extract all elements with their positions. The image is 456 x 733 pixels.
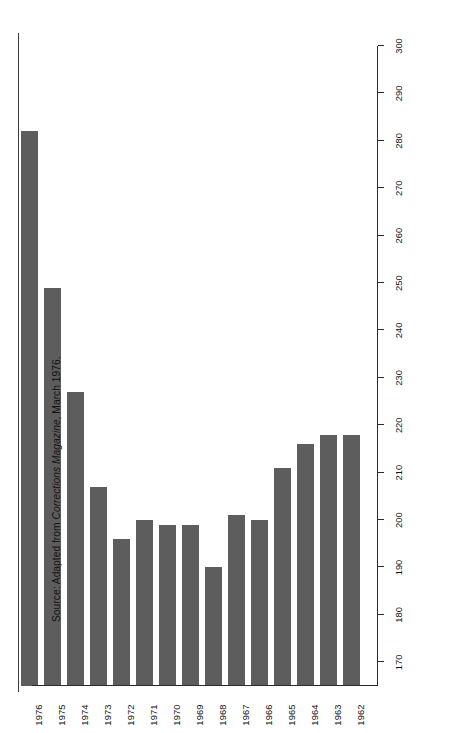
value-axis-label: 210 — [393, 453, 404, 493]
category-label: 1975 — [56, 692, 67, 733]
bar — [21, 131, 38, 686]
category-label: 1962 — [355, 692, 366, 733]
bar — [228, 515, 245, 686]
category-label: 1969 — [194, 692, 205, 733]
axis-tick — [378, 187, 384, 188]
value-axis-ticks — [378, 46, 384, 686]
value-axis-label: 220 — [393, 405, 404, 445]
category-label: 1967 — [240, 692, 251, 733]
axis-tick — [378, 519, 384, 520]
axis-tick — [378, 614, 384, 615]
value-axis-label: 180 — [393, 595, 404, 635]
bar — [251, 520, 268, 686]
bar — [159, 525, 176, 686]
bar — [90, 487, 107, 686]
bar — [343, 435, 360, 686]
value-axis-label: 270 — [393, 168, 404, 208]
value-axis-label: 290 — [393, 73, 404, 113]
bar — [274, 468, 291, 686]
category-label: 1965 — [286, 692, 297, 733]
bar-chart: 1962196319641965196619671968196919701971… — [32, 46, 424, 686]
value-axis-label: 280 — [393, 121, 404, 161]
axis-tick — [378, 424, 384, 425]
value-axis-label: 200 — [393, 500, 404, 540]
axis-tick — [378, 377, 384, 378]
axis-tick — [378, 282, 384, 283]
axis-tick — [378, 472, 384, 473]
value-axis-label: 240 — [393, 310, 404, 350]
value-axis-label: 230 — [393, 358, 404, 398]
axis-tick — [378, 329, 384, 330]
category-label: 1968 — [217, 692, 228, 733]
bar — [67, 392, 84, 686]
bar — [113, 539, 130, 686]
value-axis-label: 300 — [393, 26, 404, 66]
category-label: 1971 — [148, 692, 159, 733]
bar-series — [32, 46, 377, 686]
plot-area: 1962196319641965196619671968196919701971… — [32, 46, 424, 686]
axis-tick — [378, 92, 384, 93]
source-note-prefix: Source: Adapted from — [51, 520, 62, 622]
value-axis-label: 170 — [393, 642, 404, 682]
bar — [182, 525, 199, 686]
bar — [320, 435, 337, 686]
axis-tick — [378, 566, 384, 567]
axis-tick — [378, 45, 384, 46]
category-label: 1970 — [171, 692, 182, 733]
category-label: 1974 — [79, 692, 90, 733]
value-axis-label: 260 — [393, 216, 404, 256]
source-note: Source: Adapted from Corrections Magazin… — [51, 322, 62, 622]
axis-tick — [378, 235, 384, 236]
source-note-publication: Corrections Magazine — [51, 419, 62, 519]
category-label: 1963 — [332, 692, 343, 733]
page-border-rule — [18, 33, 19, 692]
source-note-suffix: , March 1976. — [51, 356, 62, 419]
category-axis-line — [32, 685, 378, 686]
category-label: 1964 — [309, 692, 320, 733]
bar — [297, 444, 314, 686]
bar — [136, 520, 153, 686]
value-axis-label: 190 — [393, 547, 404, 587]
axis-tick — [378, 140, 384, 141]
value-axis-label: 250 — [393, 263, 404, 303]
axis-tick — [378, 661, 384, 662]
category-label: 1973 — [102, 692, 113, 733]
bar — [205, 567, 222, 686]
category-label: 1972 — [125, 692, 136, 733]
category-label: 1976 — [33, 692, 44, 733]
category-label: 1966 — [263, 692, 274, 733]
